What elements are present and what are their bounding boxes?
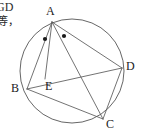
segment-ad [52, 22, 122, 68]
segment-bc [27, 89, 103, 119]
segment-bd [27, 68, 122, 89]
angle-mark-dot-1 [43, 37, 47, 41]
vertex-label-c: C [106, 118, 114, 130]
chords-group [27, 22, 122, 119]
geometry-figure [0, 0, 142, 133]
diagram-canvas: GD 等， A B C D E [0, 0, 142, 133]
vertex-label-b: B [11, 82, 19, 94]
vertex-label-e: E [45, 80, 52, 92]
angle-mark-dot-2 [62, 34, 66, 38]
segment-ac [52, 22, 103, 119]
angle-marks-group [43, 34, 66, 41]
vertex-label-d: D [126, 60, 135, 72]
vertex-label-a: A [46, 5, 55, 17]
